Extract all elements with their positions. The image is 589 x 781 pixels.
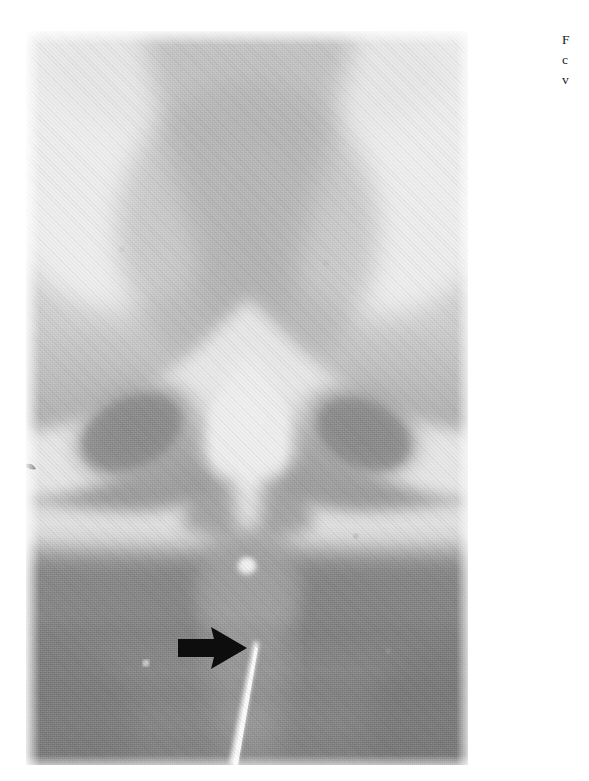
pointer-arrow — [178, 626, 248, 670]
bright-speck — [143, 660, 149, 666]
radiopaque-focus — [234, 554, 260, 578]
figure-caption: F c v — [562, 30, 589, 90]
caption-line-2: c — [562, 50, 589, 70]
caption-line-1: F — [562, 30, 589, 50]
page-canvas: F c v — [0, 0, 589, 781]
pointer-arrow-icon — [178, 626, 248, 670]
caption-line-3: v — [562, 70, 589, 90]
